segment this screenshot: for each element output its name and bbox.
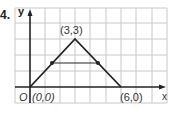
vertex-label-a: (0,0) <box>32 91 55 103</box>
y-axis-label: y <box>18 5 25 17</box>
x-axis-label: x <box>162 91 167 102</box>
vertex-label-c: (6,0) <box>120 91 143 103</box>
vertex-label-b: (3,3) <box>60 24 83 36</box>
triangle-diagram: y x O (0,0) (3,3) (6,0) <box>0 0 177 113</box>
midpoint-left <box>50 61 54 65</box>
origin-label: O <box>19 91 28 103</box>
axes <box>15 12 162 103</box>
x-axis-arrow-icon <box>159 85 166 90</box>
midpoint-right <box>96 61 100 65</box>
y-axis-arrow-icon <box>28 9 33 16</box>
